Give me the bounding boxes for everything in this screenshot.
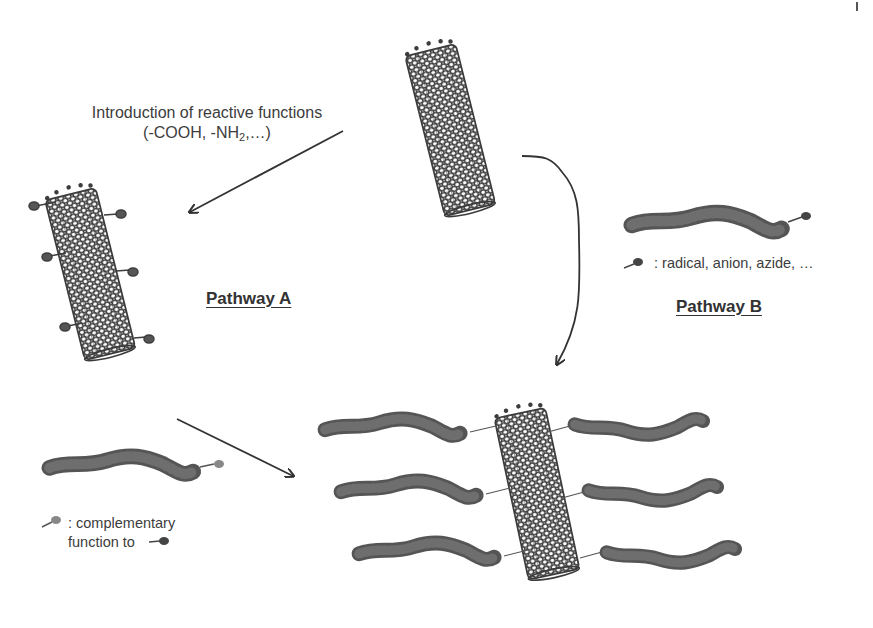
intro-line-2-prefix: (-COOH, -NH	[143, 124, 239, 141]
diagram-canvas: Introduction of reactive functions (-COO…	[0, 0, 873, 628]
intro-line-2-suffix: ,…)	[245, 124, 271, 141]
functionalized-nanotube	[29, 179, 154, 364]
intro-line-1: Introduction of reactive functions	[62, 103, 352, 123]
intro-line-2: (-COOH, -NH2,…)	[62, 123, 352, 147]
pathway-b-label: Pathway B	[676, 297, 762, 317]
page-edge-mark	[856, 2, 858, 11]
legend-pathway-a: : complementary function to	[68, 514, 175, 552]
legend-pathway-b: : radical, anion, azide, …	[654, 255, 814, 271]
polymer-with-complementary-end	[49, 456, 224, 474]
pathway-a-label: Pathway A	[206, 289, 291, 309]
legend-a-line-2: function to	[68, 533, 175, 552]
pristine-nanotube	[403, 35, 496, 220]
legend-a-line-1: : complementary	[68, 515, 175, 531]
polymer-with-reactive-end	[632, 212, 811, 231]
reactive-end-group-icon	[624, 258, 643, 268]
grafted-chain-right-1	[575, 419, 703, 435]
intro-label: Introduction of reactive functions (-COO…	[62, 103, 352, 147]
polymer-grafted-nanotube	[325, 399, 735, 583]
grafted-chain-right-3	[607, 547, 735, 563]
grafted-chain-left-2	[341, 481, 510, 498]
grafted-chain-left-1	[325, 419, 496, 436]
grafted-chain-right-2	[589, 485, 717, 501]
arrow-pathway-b	[522, 156, 580, 364]
grafted-chain-left-3	[359, 543, 528, 560]
complementary-end-group-icon	[42, 516, 61, 527]
